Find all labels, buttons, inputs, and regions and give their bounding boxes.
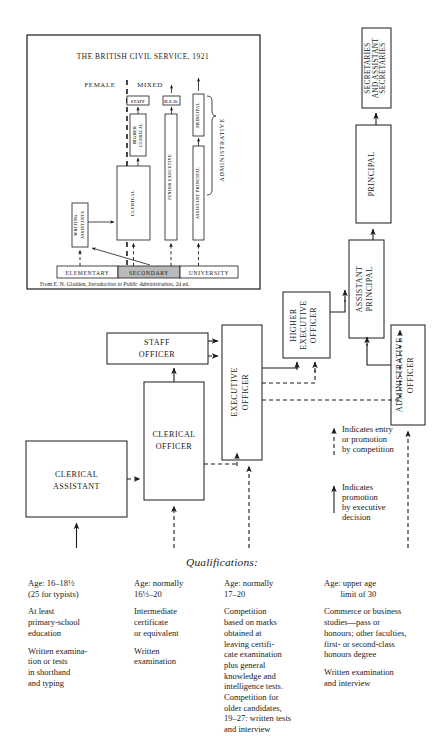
qualification-paragraph: Age: normally17–20 (224, 578, 310, 599)
inset-higher-clerical-label-2: CLERICAL (139, 123, 143, 147)
qualification-paragraph: Writtenexamination (134, 646, 214, 667)
qualification-column-0: Age: 16–18½(25 for typists)At leastprima… (28, 578, 120, 695)
qualifications-title: Qualifications: (0, 556, 444, 568)
main-diagram: SECRETARIES AND ASSISTANT SECRETARIES PR… (26, 28, 425, 548)
line-eo-heo-dashed (262, 370, 315, 383)
principal-label: PRINCIPAL (367, 151, 376, 196)
clerical-assistant-label-1: CLERICAL (55, 470, 98, 479)
inset-education-university-label: UNIVERSITY (189, 270, 230, 276)
inset-writing-assistants-label-2: ASSISTANTS (81, 211, 85, 239)
inset-assistant-principal-label: ASSISTANT PRINCIPAL (196, 167, 200, 219)
higher-executive-officer-label-3: OFFICER (309, 307, 318, 344)
clerical-officer-label-1: CLERICAL (152, 430, 195, 439)
inset-principal-label: PRINCIPAL (196, 102, 200, 127)
inset-staff-label: STAFF (131, 100, 145, 104)
inset-panel: THE BRITISH CIVIL SERVICE, 1921 FEMALE M… (27, 35, 260, 289)
legend-competition-text: Indicates entry or promotion by competit… (342, 424, 434, 454)
qualification-paragraph: Age: 16–18½(25 for typists) (28, 578, 120, 599)
qualification-paragraph: Intermediatecertificateor equivalent (134, 606, 214, 638)
inset-title: THE BRITISH CIVIL SERVICE, 1921 (77, 52, 209, 61)
administrative-officer-label-2: OFFICER (406, 357, 415, 394)
inset-clerical-label: CLERICAL (130, 190, 135, 217)
inset-higher-clerical-label-1: HIGHER (133, 126, 137, 145)
box-clerical-assistant (26, 441, 127, 517)
higher-executive-officer-label-2: EXECUTIVE (299, 300, 308, 349)
qualification-column-2: Age: normally17–20Competitionbased on ma… (224, 578, 310, 736)
clerical-assistant-label-2: ASSISTANT (53, 482, 100, 491)
higher-executive-officer-label-1: HIGHER (289, 308, 298, 341)
executive-officer-label-2: OFFICER (241, 374, 250, 411)
staff-officer-label-2: OFFICER (139, 350, 176, 359)
inset-arrow-secondary-writing (92, 248, 150, 265)
inset-writing-assistants-label-1: WRITING (74, 214, 78, 235)
inset-citation: From E. N. Gladden, Introduction to Publ… (40, 281, 190, 287)
line-adminofficer-assistantprincipal (367, 344, 391, 365)
assistant-principal-label-2: PRINCIPAL (365, 266, 374, 311)
qualification-paragraph: Age: normally16½–20 (134, 578, 214, 599)
inset-junior-executive-label: JUNIOR EXECUTIVE (168, 154, 172, 200)
qualification-paragraph: At leastprimary-schooleducation (28, 606, 120, 638)
qualification-column-3: Age: upper age limit of 30Commerce or bu… (324, 578, 444, 695)
qualification-column-1: Age: normally16½–20Intermediatecertifica… (134, 578, 214, 674)
qualification-paragraph: Competitionbased on marksobtained atleav… (224, 606, 310, 734)
inset-education-elementary-label: ELEMENTARY (65, 270, 109, 276)
line-eo-heo-solid (262, 366, 297, 368)
qualification-paragraph: Commerce or businessstudies—pass orhonou… (324, 606, 444, 660)
inset-mixed-label: MIXED (137, 81, 163, 88)
executive-officer-label-1: EXECUTIVE (230, 367, 239, 416)
legend-executive-text: Indicates promotion by executive decisio… (342, 482, 434, 523)
assistant-principal-label-1: ASSISTANT (355, 265, 364, 312)
secretaries-label-3: SECRETARIES (378, 42, 387, 94)
staff-officer-label-1: STAFF (144, 338, 170, 347)
qualification-paragraph: Written examina-tion or testsin shorthan… (28, 646, 120, 689)
box-clerical-officer (144, 382, 204, 500)
inset-education-secondary-label: SECONDARY (129, 270, 169, 276)
line-heo-assistantprincipal (330, 300, 345, 312)
qualification-paragraph: Age: upper age limit of 30 (324, 578, 444, 599)
qualification-paragraph: Written examinationand interview (324, 667, 444, 688)
inset-heo-label: H.E.O. (164, 100, 178, 104)
clerical-officer-label-2: OFFICER (156, 442, 193, 451)
inset-administrative-label: ADMINISTRATIVE (218, 118, 225, 181)
inset-education-bar: ELEMENTARY SECONDARY UNIVERSITY (57, 266, 238, 278)
inset-female-label: FEMALE (84, 81, 115, 88)
